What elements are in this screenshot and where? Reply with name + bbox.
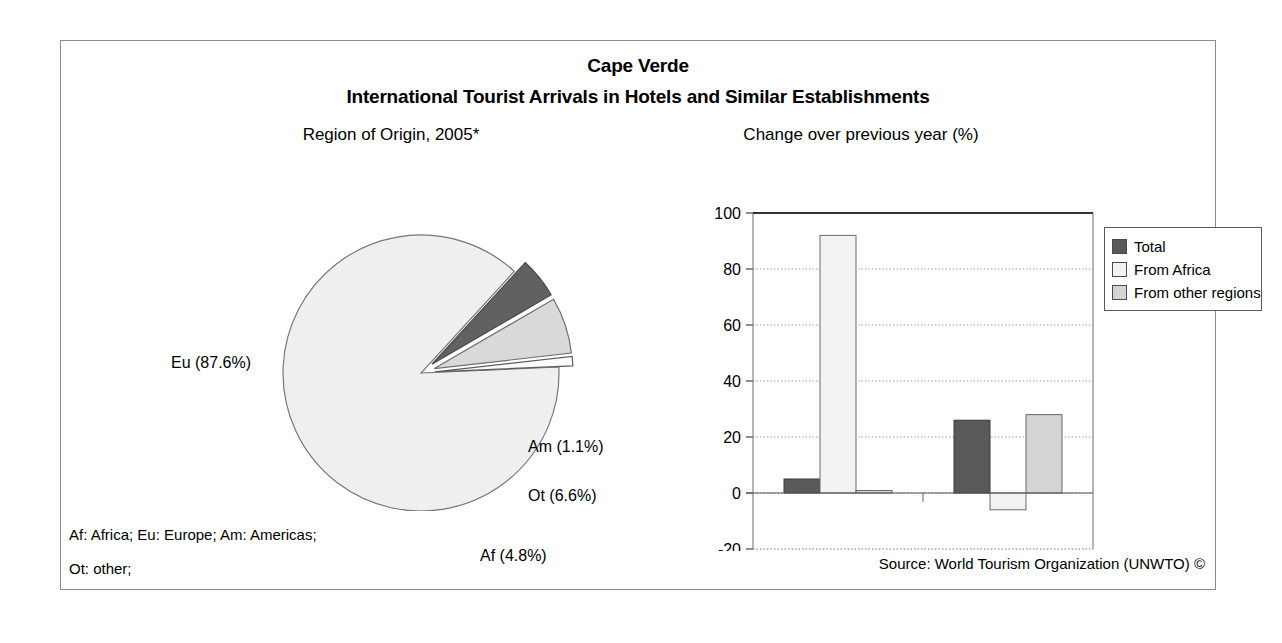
abbreviation-note-line1: Af: Africa; Eu: Europe; Am: Americas; (69, 526, 317, 543)
page-subtitle: International Tourist Arrivals in Hotels… (61, 86, 1215, 108)
y-axis-tick-label: 40 (723, 373, 741, 390)
bar (1026, 415, 1062, 493)
legend-label-total: Total (1134, 238, 1166, 255)
bar (820, 235, 856, 493)
legend-swatch-from-africa (1112, 262, 1127, 277)
y-axis-tick-label: 60 (723, 317, 741, 334)
bar-chart-svg: -20020406080100 2004/20032005*/2004 (661, 151, 1221, 551)
bar-chart-legend: Total From Africa From other regions (1104, 227, 1262, 311)
y-axis-tick-label: 20 (723, 429, 741, 446)
abbreviation-note-line2: Ot: other; (69, 560, 132, 577)
chart-page: Cape Verde International Tourist Arrival… (0, 0, 1282, 643)
y-axis-tick-label: -20 (718, 541, 741, 551)
legend-label-other-regions: From other regions (1134, 284, 1261, 301)
legend-item-from-africa: From Africa (1112, 261, 1253, 278)
legend-swatch-total (1112, 239, 1127, 254)
legend-swatch-other-regions (1112, 285, 1127, 300)
chart-frame: Cape Verde International Tourist Arrival… (60, 40, 1216, 590)
bar (990, 493, 1026, 510)
bars (784, 235, 1062, 509)
bar-chart: -20020406080100 2004/20032005*/2004 (661, 151, 1221, 551)
bar (784, 479, 820, 493)
legend-label-from-africa: From Africa (1134, 261, 1211, 278)
y-axis-tick-label: 100 (714, 205, 741, 222)
y-axis-tick-label: 80 (723, 261, 741, 278)
source-note: Source: World Tourism Organization (UNWT… (879, 555, 1205, 572)
pie-label-eu: Eu (87.6%) (171, 354, 251, 372)
pie-label-ot: Ot (6.6%) (528, 487, 596, 505)
bar (954, 420, 990, 493)
y-axis-ticks: -20020406080100 (714, 205, 753, 551)
page-title: Cape Verde (61, 55, 1215, 77)
pie-chart-title: Region of Origin, 2005* (226, 125, 556, 145)
y-axis-tick-label: 0 (732, 485, 741, 502)
pie-chart: Eu (87.6%) Am (1.1%) Ot (6.6%) Af (4.8%) (171, 151, 641, 511)
legend-item-total: Total (1112, 238, 1253, 255)
pie-chart-svg (171, 151, 641, 511)
pie-label-af: Af (4.8%) (480, 547, 547, 565)
pie-label-am: Am (1.1%) (528, 438, 604, 456)
bar-chart-title: Change over previous year (%) (661, 125, 1061, 145)
legend-item-other-regions: From other regions (1112, 284, 1253, 301)
